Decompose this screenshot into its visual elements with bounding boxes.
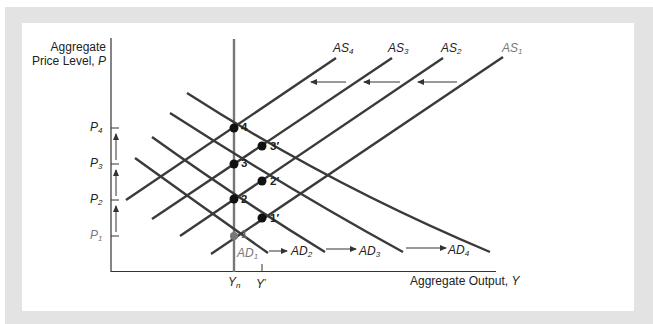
- as-label-4: AS4: [333, 42, 353, 55]
- point-2-prime: [258, 177, 267, 186]
- y-axis-title-line1: Aggregate: [28, 40, 106, 54]
- as-curve-2: [180, 58, 443, 236]
- ad-label-1: AD1: [237, 247, 258, 260]
- point-label-1: 1: [241, 228, 247, 241]
- point-3-prime: [258, 142, 267, 151]
- point-label-3-prime: 3′: [270, 140, 279, 153]
- as-label-1: AS1: [502, 42, 522, 55]
- y-axis-title: Aggregate Price Level, P: [28, 40, 106, 68]
- point-3: [230, 160, 239, 169]
- as-label-2: AS2: [441, 42, 461, 55]
- x-axis-title-text: Aggregate Output,: [410, 274, 511, 288]
- y-axis-title-text: Price Level,: [32, 54, 98, 68]
- point-label-4: 4: [241, 121, 247, 134]
- point-label-1-prime: 1′: [270, 212, 279, 225]
- point-1: [230, 232, 238, 240]
- y-axis-var: P: [98, 54, 106, 68]
- x-tick-yn: Yn: [228, 276, 240, 289]
- point-label-3: 3: [241, 157, 247, 170]
- as-curve-1: [211, 57, 503, 254]
- point-2: [230, 195, 239, 204]
- ad-label-3: AD3: [359, 245, 380, 258]
- y-tick-p3: P3: [90, 157, 102, 170]
- point-4: [230, 124, 239, 133]
- as-label-3: AS3: [388, 42, 408, 55]
- y-axis-title-line2: Price Level, P: [28, 54, 106, 68]
- y-tick-p2: P2: [90, 193, 102, 206]
- y-tick-p1: P1: [90, 229, 102, 242]
- x-axis-var: Y: [511, 274, 519, 288]
- point-label-2: 2: [241, 193, 247, 206]
- x-tick-yprime: Y′: [256, 276, 266, 291]
- point-label-2-prime: 2′: [270, 175, 279, 188]
- ad-label-4: AD4: [448, 244, 469, 257]
- y-tick-p4: P4: [90, 121, 102, 134]
- point-1-prime: [258, 214, 267, 223]
- x-axis-title: Aggregate Output, Y: [410, 275, 519, 288]
- ad-label-2: AD2: [291, 245, 312, 258]
